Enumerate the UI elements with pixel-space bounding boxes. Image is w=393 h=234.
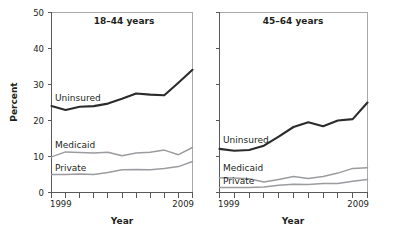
- x-tick-label-end: 2009: [172, 199, 194, 209]
- x-axis-title: Year: [281, 216, 305, 226]
- series-label-uninsured: Uninsured: [55, 93, 101, 103]
- x-tick-label-end: 2009: [347, 199, 369, 209]
- x-axis-title: Year: [110, 216, 134, 226]
- panel-title-18-44: 18–44 years: [94, 16, 155, 26]
- x-tick-label-start: 1999: [50, 199, 72, 209]
- x-ticks-right-panel: [220, 193, 368, 198]
- y-tick-label-20: 20: [33, 116, 44, 126]
- y-ticks-right-panel: [216, 13, 220, 193]
- panel-title-45-64: 45–64 years: [263, 16, 324, 26]
- y-tick-label-40: 40: [33, 44, 44, 54]
- series-line-uninsured: [52, 70, 193, 110]
- panel-18-44: 50 40 30 20 10 0 Percent: [9, 8, 194, 227]
- y-tick-label-0: 0: [39, 188, 44, 198]
- series-label-private: Private: [223, 176, 255, 186]
- series-label-medicaid: Medicaid: [55, 140, 95, 150]
- series-label-medicaid: Medicaid: [223, 163, 263, 173]
- series-label-private: Private: [55, 163, 87, 173]
- y-tick-label-50: 50: [33, 8, 44, 18]
- y-ticks-left-panel: [48, 13, 52, 193]
- figure-container: 50 40 30 20 10 0 Percent: [0, 0, 393, 234]
- x-tick-label-start: 1999: [218, 199, 240, 209]
- two-panel-line-chart: 50 40 30 20 10 0 Percent: [0, 0, 393, 234]
- series-label-uninsured: Uninsured: [223, 135, 269, 145]
- y-axis-title: Percent: [9, 82, 19, 122]
- x-ticks-left-panel: [52, 193, 193, 198]
- y-tick-label-30: 30: [33, 80, 44, 90]
- y-tick-label-10: 10: [33, 152, 44, 162]
- panel-45-64: 1999 2009 Year 45–64 years Uninsured Med…: [216, 13, 370, 227]
